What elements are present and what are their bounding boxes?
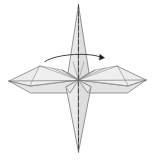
origami-figure-svg [0,0,153,162]
origami-diagram: Origami fold step diagram four-point sta… [0,0,153,162]
center-convergence-point [78,79,80,81]
